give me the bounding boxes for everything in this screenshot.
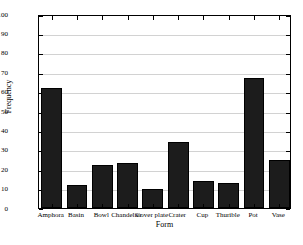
bar — [244, 78, 265, 208]
y-axis-tick — [39, 16, 43, 17]
y-axis-tick — [286, 151, 290, 152]
x-axis-tick — [229, 16, 230, 20]
y-axis-tick-label: 30 — [0, 147, 8, 154]
x-axis-tick — [203, 16, 204, 20]
y-axis-tick-label: 50 — [0, 109, 8, 116]
x-axis-tick — [128, 204, 129, 208]
bar-chart-figure: Frequency Form 0102030405060708090100Amp… — [0, 0, 303, 245]
x-axis-tick-label: Cover plate — [136, 211, 168, 219]
x-axis-tick — [279, 16, 280, 20]
gridline — [39, 54, 290, 55]
x-axis-tick-label: Amphora — [37, 211, 63, 219]
x-axis-tick — [203, 204, 204, 208]
x-axis-tick — [52, 204, 53, 208]
bar — [117, 163, 138, 208]
x-axis-tick-label: Basin — [68, 211, 84, 219]
y-axis-tick — [39, 74, 43, 75]
x-axis-tick — [52, 16, 53, 20]
y-axis-tick-label: 20 — [0, 167, 8, 174]
gridline — [39, 35, 290, 36]
bar — [168, 142, 189, 208]
y-axis-tick — [286, 74, 290, 75]
y-axis-tick — [286, 35, 290, 36]
plot-area — [38, 15, 291, 209]
x-axis-tick — [102, 204, 103, 208]
y-axis-tick-label: 40 — [0, 128, 8, 135]
y-axis-tick-label: 0 — [0, 206, 8, 213]
y-axis-tick — [286, 16, 290, 17]
y-axis-tick — [39, 35, 43, 36]
y-axis-tick — [39, 54, 43, 55]
bar — [269, 160, 290, 209]
x-axis-tick — [128, 16, 129, 20]
x-axis-tick — [102, 16, 103, 20]
y-axis-tick — [286, 209, 290, 210]
y-axis-tick-label: 80 — [0, 50, 8, 57]
y-axis-tick — [286, 93, 290, 94]
y-axis-tick — [286, 132, 290, 133]
x-axis-tick — [178, 16, 179, 20]
x-axis-tick — [77, 204, 78, 208]
gridline — [39, 74, 290, 75]
x-axis-tick-label: Crater — [168, 211, 186, 219]
y-axis-tick — [286, 113, 290, 114]
x-axis-tick-label: Bowl — [94, 211, 109, 219]
y-axis-tick-label: 70 — [0, 70, 8, 77]
y-axis-tick — [286, 54, 290, 55]
x-axis-tick — [178, 204, 179, 208]
bar — [92, 165, 113, 208]
y-axis-tick — [39, 209, 43, 210]
y-axis-tick-label: 100 — [0, 12, 8, 19]
x-axis-tick-label: Thurible — [216, 211, 240, 219]
x-axis-tick — [254, 204, 255, 208]
x-axis-tick-label: Cup — [197, 211, 209, 219]
x-axis-tick — [153, 16, 154, 20]
x-axis-title: Form — [38, 220, 291, 229]
x-axis-tick — [229, 204, 230, 208]
bar — [41, 88, 62, 208]
x-axis-tick — [153, 204, 154, 208]
x-axis-tick — [77, 16, 78, 20]
x-axis-tick-label: Pot — [248, 211, 257, 219]
y-axis-tick-label: 90 — [0, 31, 8, 38]
x-axis-tick-label: Vase — [272, 211, 285, 219]
x-axis-tick — [254, 16, 255, 20]
x-axis-tick — [279, 204, 280, 208]
y-axis-tick-label: 60 — [0, 89, 8, 96]
y-axis-tick-label: 10 — [0, 186, 8, 193]
